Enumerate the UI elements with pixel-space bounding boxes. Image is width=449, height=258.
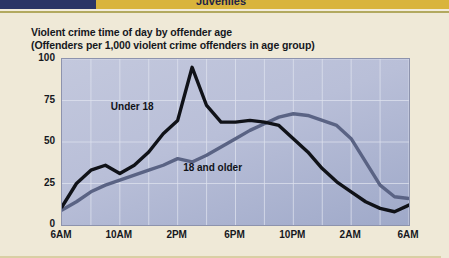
y-axis-tick-label: 50 xyxy=(15,135,55,146)
series-annotation: Under 18 xyxy=(111,101,154,112)
banner-navy-block xyxy=(0,0,96,9)
y-axis-tick-label: 0 xyxy=(15,218,55,229)
section-title: Juveniles xyxy=(96,0,346,7)
gridlines xyxy=(62,59,409,225)
right-margin xyxy=(441,13,449,258)
plot-area xyxy=(61,58,410,226)
chart-page-body: Violent crime time of day by offender ag… xyxy=(0,13,449,258)
y-axis-tick-label: 25 xyxy=(15,177,55,188)
x-axis-tick-label: 10AM xyxy=(89,229,149,240)
x-axis-tick-label: 2AM xyxy=(320,229,380,240)
y-axis-tick-label: 75 xyxy=(15,94,55,105)
y-axis-tick-label: 100 xyxy=(15,52,55,63)
x-axis-tick-label: 10PM xyxy=(262,229,322,240)
top-banner: Juveniles xyxy=(0,0,449,12)
x-axis-tick-label: 6PM xyxy=(205,229,265,240)
chart-svg xyxy=(62,59,409,225)
series-annotation: 18 and older xyxy=(183,162,242,173)
x-axis-tick-label: 6AM xyxy=(31,229,91,240)
x-axis-tick-label: 2PM xyxy=(147,229,207,240)
chart-figure: 0255075100 6AM10AM2PM6PM10PM2AM6AM Under… xyxy=(0,13,449,258)
x-axis-tick-label: 6AM xyxy=(378,229,438,240)
